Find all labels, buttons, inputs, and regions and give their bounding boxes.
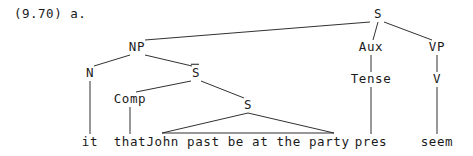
node-np: NP [129,41,145,54]
node-aux: Aux [359,41,383,54]
node-embedded-s: S [244,99,252,112]
embedded-clause-triangle [162,113,334,133]
syntax-tree-figure: (9.70) a. S NP Aux VP N S Tense V Comp S… [0,0,473,156]
leaf-pres: pres [355,136,388,149]
edge-np-to-n [94,55,130,66]
edge-np-to-s-bar [145,55,192,66]
leaf-seem: seem [421,136,454,149]
node-comp: Comp [114,93,147,106]
node-n: N [86,67,94,80]
tree-edges-layer [0,0,473,156]
node-v: V [433,73,441,86]
edge-root-s-to-aux [373,22,378,40]
node-root-s: S [374,8,382,21]
node-vp: VP [429,41,445,54]
node-s-bar: S [192,67,200,80]
s-bar-glyph: S [192,67,200,80]
edge-root-s-to-np [145,22,370,40]
leaf-embedded-clause: John past be at the party [146,136,349,149]
leaf-it: it [82,136,98,149]
leaf-that: that [114,136,147,149]
node-s-bar-label: S [192,65,200,80]
edge-root-s-to-vp [384,22,432,40]
overbar-icon [191,64,199,65]
node-tense: Tense [351,73,392,86]
edge-s-bar-to-embedded-s [201,81,244,98]
